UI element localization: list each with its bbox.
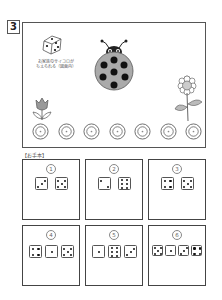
die-face-1 xyxy=(92,245,105,258)
cube-die-icon xyxy=(40,33,64,57)
card-number: 6 xyxy=(172,230,182,240)
pip xyxy=(116,247,118,249)
pip xyxy=(67,251,69,253)
pip xyxy=(121,187,123,189)
pip xyxy=(126,179,128,181)
pip xyxy=(37,186,39,188)
pip xyxy=(126,183,128,185)
pip xyxy=(133,248,135,250)
pip xyxy=(70,254,72,256)
pip xyxy=(183,186,185,188)
pip xyxy=(51,251,53,253)
card-number: 3 xyxy=(172,164,182,174)
pip xyxy=(57,180,59,182)
pip xyxy=(160,247,162,249)
example-card-5: 5 xyxy=(85,225,143,286)
die-face-4 xyxy=(29,245,42,258)
pip xyxy=(157,250,159,252)
card-number: 1 xyxy=(46,164,56,174)
pip xyxy=(63,248,65,250)
dice-row xyxy=(23,245,79,258)
tulip-icon xyxy=(31,97,53,121)
pip xyxy=(32,254,34,256)
pip xyxy=(107,186,109,188)
pip xyxy=(130,251,132,253)
pip xyxy=(187,183,189,185)
pip xyxy=(190,186,192,188)
dice-row xyxy=(86,245,142,258)
pip xyxy=(111,251,113,253)
stepping-stone xyxy=(160,123,177,140)
dice-row xyxy=(23,177,79,190)
card-number: 5 xyxy=(109,230,119,240)
sunflower-icon xyxy=(173,75,203,121)
example-card-1: 1 xyxy=(22,159,80,220)
pip xyxy=(126,254,128,256)
pip xyxy=(193,247,195,249)
pip xyxy=(121,179,123,181)
pip xyxy=(164,186,166,188)
pip xyxy=(111,247,113,249)
pip xyxy=(32,248,34,250)
pip xyxy=(164,180,166,182)
stepping-stone xyxy=(109,123,126,140)
pip xyxy=(44,180,46,182)
card-number: 2 xyxy=(109,164,119,174)
dice-row xyxy=(149,177,205,190)
card-number: 4 xyxy=(46,230,56,240)
pip xyxy=(169,186,171,188)
pip xyxy=(111,255,113,257)
pip xyxy=(199,247,201,249)
examples-label: 【お手本】 xyxy=(22,151,47,158)
pip xyxy=(37,248,39,250)
die-face-3 xyxy=(178,245,189,256)
pip xyxy=(180,253,182,255)
example-card-2: 2 xyxy=(85,159,143,220)
die-face-6 xyxy=(118,177,131,190)
question-number: 3 xyxy=(7,20,20,34)
pip xyxy=(170,250,172,252)
die-face-5 xyxy=(181,177,194,190)
pip xyxy=(64,186,66,188)
die-face-2 xyxy=(98,177,111,190)
stepping-stone xyxy=(134,123,151,140)
stepping-stones xyxy=(32,123,202,141)
stepping-stone xyxy=(32,123,49,140)
pip xyxy=(61,183,63,185)
pip xyxy=(116,251,118,253)
pip xyxy=(183,250,185,252)
pip xyxy=(193,253,195,255)
die-face-4 xyxy=(161,177,174,190)
pip xyxy=(186,247,188,249)
pip xyxy=(121,183,123,185)
pip xyxy=(169,180,171,182)
stepping-stone xyxy=(83,123,100,140)
pip xyxy=(37,254,39,256)
pip xyxy=(199,253,201,255)
die-face-1 xyxy=(45,245,58,258)
pip xyxy=(116,255,118,257)
die-face-5 xyxy=(61,245,74,258)
dice-row xyxy=(86,177,142,190)
pip xyxy=(126,187,128,189)
ladybug-icon xyxy=(92,38,136,92)
stepping-stone xyxy=(58,123,75,140)
example-card-6: 6 xyxy=(148,225,206,286)
die-face-5 xyxy=(55,177,68,190)
example-card-4: 4 xyxy=(22,225,80,286)
die-face-3 xyxy=(35,177,48,190)
pip xyxy=(41,183,43,185)
pip xyxy=(154,253,156,255)
pip xyxy=(98,251,100,253)
die-face-5 xyxy=(152,245,163,256)
die-face-6 xyxy=(108,245,121,258)
pip xyxy=(64,180,66,182)
pip xyxy=(183,180,185,182)
pip xyxy=(57,186,59,188)
pip xyxy=(70,248,72,250)
stepping-stone xyxy=(185,123,202,140)
die-face-4 xyxy=(191,245,202,256)
pip xyxy=(63,254,65,256)
pip xyxy=(160,253,162,255)
example-card-3: 3 xyxy=(148,159,206,220)
